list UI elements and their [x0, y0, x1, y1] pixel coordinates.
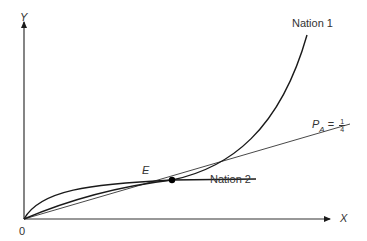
x-axis-label: X — [340, 213, 347, 224]
fraction-denominator: 4 — [339, 126, 345, 133]
price-fraction: 1 4 — [339, 118, 345, 133]
origin-label: 0 — [19, 226, 25, 237]
price-line — [24, 124, 350, 219]
equilibrium-point — [169, 177, 175, 183]
y-axis-label: Y — [20, 12, 27, 23]
nation1-label: Nation 1 — [292, 18, 333, 29]
price-equals: = — [328, 118, 334, 130]
price-line-label: PA = 1 4 — [312, 118, 345, 134]
equilibrium-label: E — [142, 165, 149, 176]
nation2-label: Nation 2 — [210, 174, 251, 185]
fraction-numerator: 1 — [339, 118, 345, 126]
price-subscript: A — [319, 125, 324, 134]
